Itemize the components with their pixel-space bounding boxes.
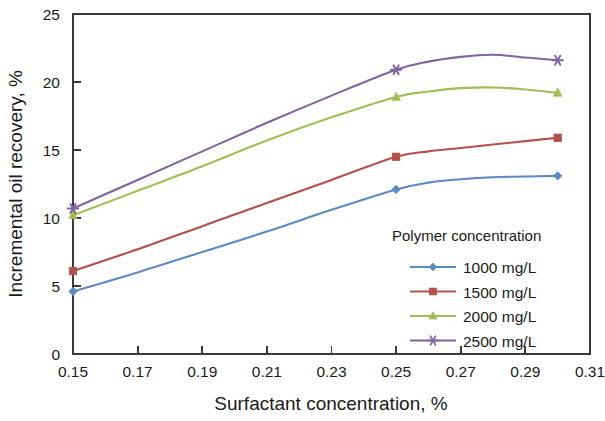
legend-label: 2000 mg/L bbox=[463, 308, 537, 325]
x-axis-ticks: 0.150.170.190.210.230.250.270.290.31 bbox=[58, 346, 605, 380]
diamond-marker bbox=[69, 287, 77, 295]
plot-axes bbox=[73, 14, 590, 354]
legend-label: 1000 mg/L bbox=[463, 259, 537, 276]
diamond-marker bbox=[392, 185, 400, 193]
x-axis-title: Surfactant concentration, % bbox=[214, 393, 448, 414]
legend-entry-3[interactable]: 2000 mg/L bbox=[410, 308, 537, 325]
series-2 bbox=[69, 134, 561, 275]
star-marker bbox=[552, 56, 562, 65]
square-marker bbox=[69, 267, 76, 274]
x-tick-label: 0.23 bbox=[316, 363, 346, 380]
legend-entry-1[interactable]: 1000 mg/L bbox=[410, 259, 537, 276]
diamond-marker bbox=[429, 263, 437, 271]
y-tick-label: 5 bbox=[51, 278, 60, 295]
legend-entries: 1000 mg/L1500 mg/L2000 mg/L2500 mg/L bbox=[410, 259, 537, 350]
series-3 bbox=[69, 87, 562, 218]
axis-frame bbox=[73, 14, 590, 354]
series-line bbox=[73, 87, 558, 215]
square-marker bbox=[554, 134, 561, 141]
x-tick-label: 0.21 bbox=[252, 363, 282, 380]
x-tick-label: 0.31 bbox=[575, 363, 605, 380]
x-tick-label: 0.25 bbox=[381, 363, 411, 380]
x-tick-label: 0.29 bbox=[510, 363, 540, 380]
x-tick-label: 0.27 bbox=[446, 363, 476, 380]
legend-label: 2500 mg/L bbox=[463, 333, 537, 350]
legend-entry-2[interactable]: 1500 mg/L bbox=[410, 284, 537, 301]
series-line bbox=[73, 138, 558, 271]
y-tick-label: 25 bbox=[43, 6, 60, 23]
chart-legend: Polymer concentration 1000 mg/L1500 mg/L… bbox=[392, 227, 541, 350]
y-tick-label: 20 bbox=[43, 74, 61, 91]
y-axis-ticks: 0510152025 bbox=[43, 6, 81, 363]
y-axis-title: Incremental oil recovery, % bbox=[5, 70, 26, 298]
x-tick-label: 0.15 bbox=[58, 363, 88, 380]
x-tick-label: 0.19 bbox=[187, 363, 217, 380]
x-tick-label: 0.17 bbox=[123, 363, 153, 380]
square-marker bbox=[430, 288, 437, 295]
y-tick-label: 15 bbox=[43, 142, 60, 159]
chart-figure: 0510152025 0.150.170.190.210.230.250.270… bbox=[0, 0, 605, 421]
legend-entry-4[interactable]: 2500 mg/L bbox=[410, 333, 537, 350]
diamond-marker bbox=[553, 172, 561, 180]
y-tick-label: 0 bbox=[51, 346, 60, 363]
line-chart: 0510152025 0.150.170.190.210.230.250.270… bbox=[0, 0, 605, 421]
legend-label: 1500 mg/L bbox=[463, 284, 537, 301]
star-marker bbox=[428, 336, 438, 344]
y-tick-label: 10 bbox=[43, 210, 61, 227]
legend-title: Polymer concentration bbox=[392, 227, 541, 244]
star-marker bbox=[391, 65, 401, 74]
square-marker bbox=[392, 153, 399, 160]
